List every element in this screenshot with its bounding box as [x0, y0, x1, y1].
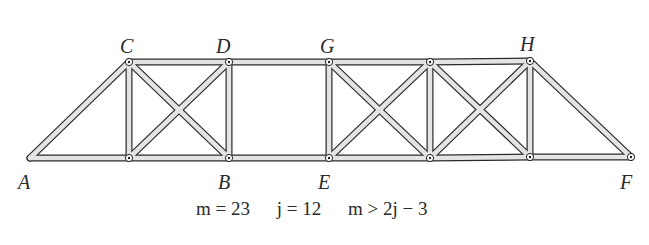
joint-label-C: C	[120, 36, 133, 56]
joint-pin-dot	[529, 156, 531, 158]
joint-pin-dot	[228, 157, 230, 159]
joint-pin-dot	[429, 157, 431, 159]
joint-label-B: B	[218, 172, 230, 192]
caption-member-count: m = 23	[196, 198, 250, 219]
joint-pin-dot	[128, 61, 130, 63]
joint-pin-dot	[630, 156, 632, 158]
joint-label-A: A	[18, 172, 30, 192]
joint-label-G: G	[320, 36, 334, 56]
member-H-F	[530, 61, 631, 157]
joint-pin-dot	[128, 157, 130, 159]
member-T4-H	[430, 61, 530, 62]
joint-pin-dot	[429, 61, 431, 63]
joint-label-F: F	[620, 172, 632, 192]
joint-pin-dot	[328, 61, 330, 63]
joint-label-E: E	[318, 172, 330, 192]
member-L4-L5	[430, 157, 530, 158]
joint-pin-dot	[328, 157, 330, 159]
caption-joint-count: j = 12	[277, 198, 322, 219]
caption: m = 23 j = 12 m > 2j − 3	[196, 198, 450, 220]
truss-diagram	[0, 0, 649, 190]
joint-pin-dot	[529, 60, 531, 62]
joint-label-D: D	[216, 36, 230, 56]
caption-condition: m > 2j − 3	[348, 198, 428, 219]
member-A-C	[30, 62, 129, 158]
joint-label-H: H	[520, 34, 534, 54]
joint-pin-dot	[228, 61, 230, 63]
